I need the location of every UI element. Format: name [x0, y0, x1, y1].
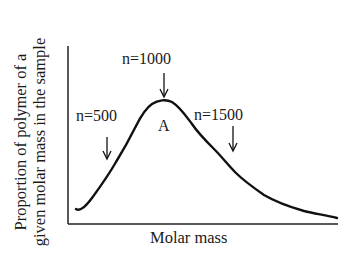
arrow-n500-icon	[103, 137, 111, 159]
peak-label-a: A	[158, 117, 170, 135]
arrow-n1500-icon	[229, 126, 237, 151]
x-axis-label: Molar mass	[150, 228, 227, 248]
annotation-n500: n=500	[76, 107, 117, 125]
molar-mass-distribution-chart: Proportion of polymer of a given molar m…	[0, 0, 358, 278]
arrow-n1000-icon	[160, 73, 168, 97]
annotation-n1000: n=1000	[122, 50, 171, 68]
annotation-n1500: n=1500	[194, 106, 243, 124]
